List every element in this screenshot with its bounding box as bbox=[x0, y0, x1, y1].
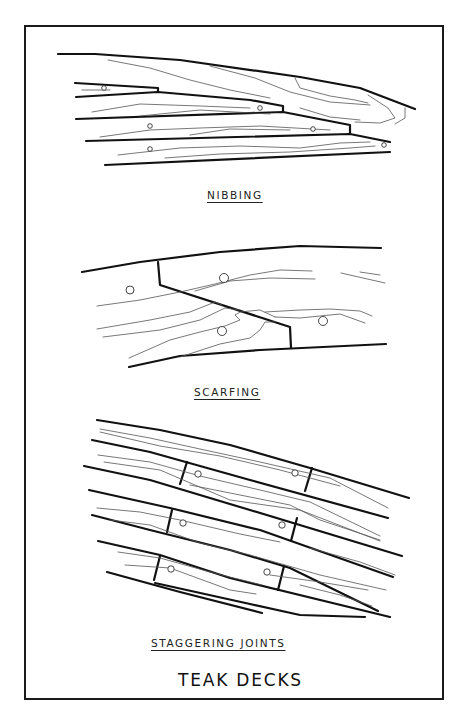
staggering-joints-drawing bbox=[84, 420, 409, 617]
figure-title: TEAK DECKS bbox=[178, 670, 303, 690]
staggering-joints-caption: STAGGERING JOINTS bbox=[151, 637, 285, 649]
nibbing-caption: NIBBING bbox=[207, 189, 263, 201]
scarfing-drawing bbox=[82, 246, 386, 367]
nibbing-drawing bbox=[58, 54, 415, 165]
scarfing-caption: SCARFING bbox=[194, 386, 260, 398]
teak-deck-illustration bbox=[0, 0, 468, 723]
